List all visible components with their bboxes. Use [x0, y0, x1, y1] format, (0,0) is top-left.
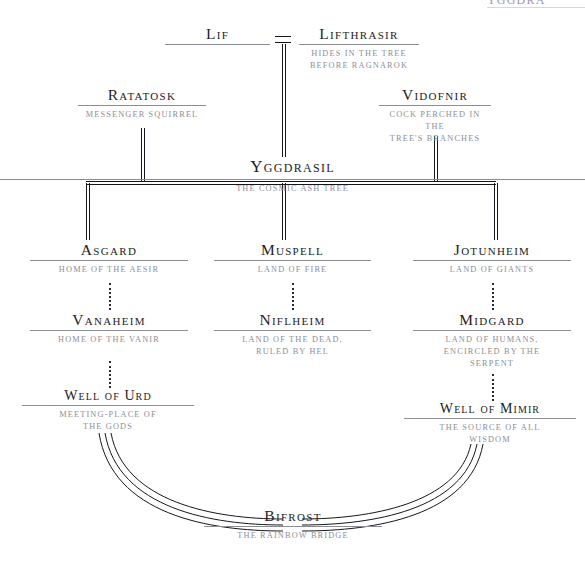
node-bifrost-title: Bifrost: [204, 507, 382, 526]
node-lifthrasir-desc: HIDES IN THE TREE BEFORE RAGNAROK: [299, 45, 419, 72]
node-yggdrasil[interactable]: Yggdrasil THE COSMIC ASH TREE: [0, 158, 585, 195]
yggdrasil-genealogy-chart: YGGDRA Lif Lifthrasir HIDES IN THE TREE …: [0, 0, 585, 574]
header-divider: [487, 7, 585, 8]
node-jotunheim[interactable]: Jotunheim LAND OF GIANTS: [413, 241, 571, 276]
node-well-of-urd-title: Well of Urd: [22, 388, 194, 405]
node-asgard-title: Asgard: [30, 241, 188, 260]
node-well-of-mimir[interactable]: Well of Mimir THE SOURCE OF ALL WISDOM: [404, 401, 576, 446]
node-well-of-urd-desc: MEETING-PLACE OF THE GODS: [22, 406, 194, 433]
node-niflheim-desc: LAND OF THE DEAD, RULED BY HEL: [214, 331, 371, 358]
node-lifthrasir-title: Lifthrasir: [299, 25, 419, 44]
node-yggdrasil-desc: THE COSMIC ASH TREE: [0, 180, 585, 195]
node-muspell-desc: LAND OF FIRE: [214, 261, 371, 276]
node-midgard-desc: LAND OF HUMANS, ENCIRCLED BY THE SERPENT: [413, 331, 571, 370]
node-jotunheim-desc: LAND OF GIANTS: [413, 261, 571, 276]
node-bifrost-desc: THE RAINBOW BRIDGE: [204, 527, 382, 542]
node-well-of-mimir-title: Well of Mimir: [404, 401, 576, 418]
clipped-header-text: YGGDRA: [487, 0, 585, 7]
node-lifthrasir[interactable]: Lifthrasir HIDES IN THE TREE BEFORE RAGN…: [299, 25, 419, 72]
node-vanaheim-title: Vanaheim: [30, 311, 188, 330]
node-vidofnir[interactable]: Vidofnir COCK PERCHED IN THE TREE'S BRAN…: [379, 86, 491, 145]
node-asgard[interactable]: Asgard HOME OF THE AESIR: [30, 241, 188, 276]
node-lif-title: Lif: [165, 25, 270, 44]
node-asgard-desc: HOME OF THE AESIR: [30, 261, 188, 276]
node-midgard[interactable]: Midgard LAND OF HUMANS, ENCIRCLED BY THE…: [413, 311, 571, 370]
node-lif[interactable]: Lif: [165, 25, 270, 45]
marriage-connector-lif-lifthrasir: [275, 36, 291, 43]
node-jotunheim-title: Jotunheim: [413, 241, 571, 260]
node-yggdrasil-title: Yggdrasil: [0, 158, 585, 179]
connector-asgard-to-vanaheim: [109, 283, 113, 310]
connector-marriage-to-yggdrasil: [282, 44, 286, 157]
node-muspell[interactable]: Muspell LAND OF FIRE: [214, 241, 371, 276]
connector-muspell-to-niflheim: [292, 283, 296, 310]
connector-vanaheim-to-well-of-urd: [109, 361, 113, 388]
node-ratatosk-desc: MESSENGER SQUIRREL: [78, 106, 206, 121]
connector-midgard-to-well-of-mimir: [492, 374, 496, 401]
node-niflheim[interactable]: Niflheim LAND OF THE DEAD, RULED BY HEL: [214, 311, 371, 358]
node-well-of-mimir-desc: THE SOURCE OF ALL WISDOM: [404, 419, 576, 446]
node-ratatosk-title: Ratatosk: [78, 86, 206, 105]
node-ratatosk[interactable]: Ratatosk MESSENGER SQUIRREL: [78, 86, 206, 121]
node-vanaheim[interactable]: Vanaheim HOME OF THE VANIR: [30, 311, 188, 346]
node-midgard-title: Midgard: [413, 311, 571, 330]
node-bifrost[interactable]: Bifrost THE RAINBOW BRIDGE: [204, 507, 382, 542]
node-vidofnir-title: Vidofnir: [379, 86, 491, 105]
node-lif-rule: [165, 44, 270, 45]
node-niflheim-title: Niflheim: [214, 311, 371, 330]
node-well-of-urd[interactable]: Well of Urd MEETING-PLACE OF THE GODS: [22, 388, 194, 433]
node-vidofnir-desc: COCK PERCHED IN THE TREE'S BRANCHES: [379, 106, 491, 145]
connector-jotunheim-to-midgard: [492, 283, 496, 310]
node-muspell-title: Muspell: [214, 241, 371, 260]
node-vanaheim-desc: HOME OF THE VANIR: [30, 331, 188, 346]
